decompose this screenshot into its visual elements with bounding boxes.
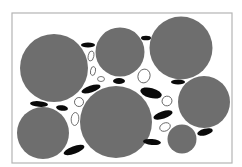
large-particle [178,76,230,128]
large-particle [168,125,197,154]
figure [0,0,242,167]
large-particle [150,17,213,80]
large-particle [96,28,145,77]
large-particle [20,34,88,102]
large-particle [80,86,152,158]
black-particle [81,43,95,48]
black-particle [141,36,151,41]
large-particle [17,107,69,159]
black-particle [171,80,185,85]
packing-diagram [0,0,242,167]
black-particle [113,78,125,84]
